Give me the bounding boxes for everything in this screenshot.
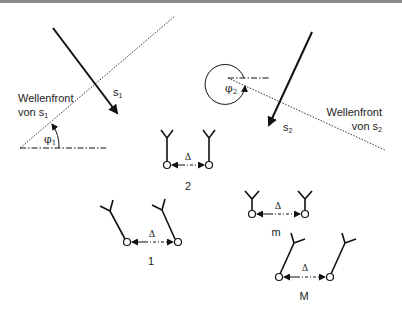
source-2-arrow [269,32,312,125]
pair-label: M [299,290,308,302]
antenna-element-circle [302,211,309,218]
source-1-label: s1 [113,86,123,99]
antenna-pair-2: Δ 2 [161,130,215,192]
antenna-icon [245,191,259,211]
antenna-element-circle [276,274,283,281]
source-2-group: s2 Wellenfront von s2 φ2 [205,32,385,150]
antenna-element-circle [124,239,131,246]
wavefront-1-label-line2: von s1 [18,106,48,119]
antenna-element-circle [249,211,256,218]
antenna-icon [161,130,173,162]
source-1-group: s1 Wellenfront von s1 φ1 [18,16,175,148]
antenna-element-circle [164,162,171,169]
antenna-element-circle [175,239,182,246]
pair-label: 2 [185,180,191,192]
array-geometry-diagram: s1 Wellenfront von s1 φ1 s2 Wellenfront … [0,0,402,310]
pair-label: m [271,226,280,238]
antenna-icon [298,191,312,211]
antenna-icon [152,199,175,239]
spacing-label: Δ [302,263,309,273]
angle-2-label: φ2 [225,82,237,96]
antenna-pair-1: Δ 1 [100,199,182,267]
pair-label: 1 [148,255,154,267]
source-2-label: s2 [283,121,293,134]
angle-1-label: φ1 [44,133,56,147]
antenna-pair-M: Δ M [276,233,357,302]
antenna-pair-m: Δ m [245,191,312,238]
wavefront-2-label-line1: Wellenfront [327,106,382,118]
antenna-icon [203,130,215,162]
antenna-icon [100,200,125,239]
antenna-element-circle [206,162,213,169]
antenna-icon [331,233,356,274]
wavefront-1-label-line1: Wellenfront [18,92,73,104]
antenna-element-circle [327,274,334,281]
spacing-label: Δ [185,152,192,162]
wavefront-1-line [20,16,175,148]
spacing-label: Δ [275,201,282,211]
wavefront-2-label-line2: von s2 [352,120,382,133]
spacing-label: Δ [149,229,156,239]
